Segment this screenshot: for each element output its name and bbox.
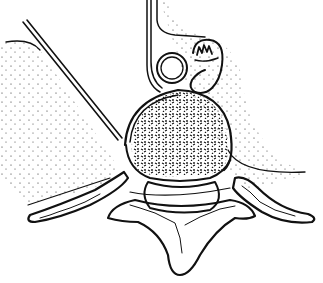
spinous-process [108, 200, 255, 275]
aorta [157, 53, 187, 83]
spinal-canal [130, 182, 230, 213]
vertebral-body [125, 90, 232, 181]
left-soft-tissue [0, 40, 120, 205]
illustration-canvas [0, 0, 323, 283]
vertebra-cross-section-drawing [0, 0, 323, 283]
